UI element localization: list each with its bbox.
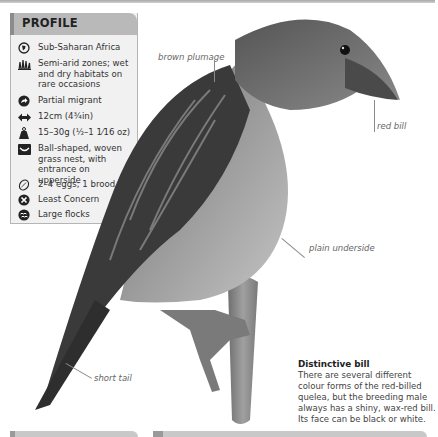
callout-line-bill: [374, 100, 375, 132]
callout-short-tail: short tail: [94, 373, 132, 383]
note-title: Distinctive bill: [298, 359, 370, 369]
callout-line-plumage: [214, 60, 215, 82]
callout-plain-underside: plain underside: [309, 243, 375, 253]
callout-red-bill: red bill: [377, 121, 406, 131]
branch: [228, 277, 258, 424]
bottom-panel-right: [153, 431, 427, 437]
bottom-panel-left: [10, 431, 138, 437]
note-body: There are several different colour forms…: [298, 370, 438, 425]
